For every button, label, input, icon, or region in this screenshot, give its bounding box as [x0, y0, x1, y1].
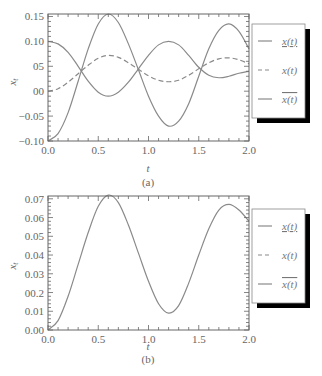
y-tick-label: 0.10 — [25, 35, 45, 47]
y-axis-title: xt — [6, 78, 20, 87]
y-tick-label: 0.06 — [25, 212, 45, 224]
legend: x(t) x(t) x(t) — [252, 209, 310, 308]
y-tick-label: −0.05 — [19, 110, 45, 122]
y-tick-label: 0.15 — [25, 10, 45, 22]
plot-curves — [48, 195, 249, 330]
legend-label-lower: x(t) — [281, 220, 298, 233]
chart-panel-a: 0.150.100500−0.05−0.10 0.00.51.01.52.0 x… — [6, 10, 310, 189]
y-tick-label: 0.04 — [25, 249, 45, 261]
panel-caption: (b) — [142, 353, 155, 366]
y-tick-label: 0.01 — [25, 305, 44, 317]
chart-panel-b: 0.070.060.050.040.0300.20.010.00 0.00.51… — [6, 193, 310, 366]
y-tick-label: 00.2 — [25, 287, 44, 299]
legend-label-upper: x(t) — [281, 278, 298, 291]
x-axis-title: t — [146, 162, 150, 174]
x-tick-label: 0.0 — [41, 333, 55, 345]
y-tick-label: 0.03 — [25, 268, 45, 280]
figure: 0.150.100500−0.05−0.10 0.00.51.01.52.0 x… — [0, 0, 322, 376]
plot-curves — [48, 14, 249, 141]
y-tick-label: 0.07 — [25, 193, 45, 205]
series-line — [48, 41, 249, 96]
x-tick-label: 0.5 — [91, 144, 105, 156]
x-tick-label: 2.0 — [242, 144, 256, 156]
legend-label-upper: x(t) — [281, 93, 298, 106]
x-tick-label: 1.0 — [142, 144, 156, 156]
x-tick-label: 1.5 — [192, 144, 206, 156]
panel-caption: (a) — [142, 176, 155, 189]
y-axis-tick-labels: 0.150.100500−0.05−0.10 — [19, 10, 45, 147]
legend-label-mid: x(t) — [281, 249, 298, 262]
y-tick-label: 05 — [33, 60, 45, 72]
series-line — [48, 195, 249, 330]
x-tick-label: 0.0 — [41, 144, 55, 156]
y-tick-label: 00 — [33, 85, 45, 97]
y-axis-title: xt — [6, 262, 20, 271]
legend-label-lower: x(t) — [281, 35, 298, 48]
legend-label-mid: x(t) — [281, 64, 298, 77]
y-tick-label: 0.05 — [25, 230, 45, 242]
x-axis-tick-labels: 0.00.51.01.52.0 — [41, 144, 256, 156]
series-line — [48, 55, 249, 91]
x-tick-label: 0.5 — [91, 333, 105, 345]
x-tick-label: 1.5 — [192, 333, 206, 345]
y-axis-tick-labels: 0.070.060.050.040.0300.20.010.00 — [25, 193, 45, 336]
legend: x(t) x(t) x(t) — [252, 24, 310, 123]
x-tick-label: 2.0 — [242, 333, 256, 345]
